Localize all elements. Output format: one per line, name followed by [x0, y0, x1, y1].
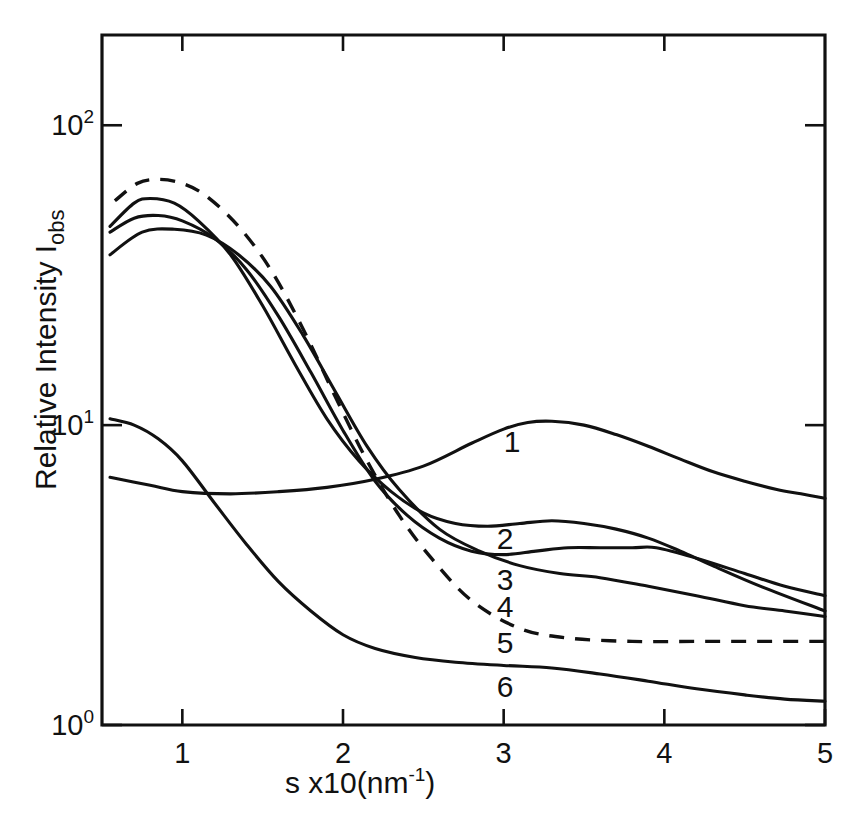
top-axis-ticks	[182, 35, 664, 51]
curve-label-2: 2	[497, 522, 514, 555]
x-tick-label-3: 3	[496, 737, 512, 769]
y-axis-title: Relative Intensity Iobs	[29, 209, 69, 490]
y-tick-exponent: 1	[83, 406, 94, 427]
svg-text:s x10(nm-1): s x10(nm-1)	[285, 764, 435, 799]
y-axis-title-subscript: obs	[44, 209, 69, 244]
curve-1	[110, 421, 825, 498]
x-tick-label-5: 5	[817, 737, 833, 769]
curve-label-4: 4	[497, 590, 514, 623]
xray-scattering-chart: 12345 102101100 123456 s x10(nm-1) Relat…	[0, 0, 853, 816]
x-axis-tick-labels: 12345	[174, 737, 833, 769]
x-axis-ticks	[182, 709, 825, 725]
y-tick-label-1e2: 102	[51, 106, 94, 141]
x-tick-label-1: 1	[174, 737, 190, 769]
curve-3	[110, 215, 825, 595]
figure-canvas: 12345 102101100 123456 s x10(nm-1) Relat…	[0, 0, 853, 816]
x-tick-label-2: 2	[335, 737, 351, 769]
y-tick-exponent: 0	[83, 706, 94, 727]
y-tick-mantissa: 10	[51, 709, 83, 741]
y-tick-mantissa: 10	[51, 109, 83, 141]
right-axis-ticks	[805, 125, 825, 725]
curve-5	[115, 179, 825, 641]
curve-6	[110, 419, 825, 701]
y-tick-label-1e0: 100	[51, 706, 94, 741]
y-tick-exponent: 2	[83, 106, 94, 127]
x-tick-label-4: 4	[656, 737, 672, 769]
curve-label-5: 5	[497, 626, 514, 659]
curve-4	[110, 229, 825, 617]
data-curves	[110, 179, 825, 701]
x-axis-title-main: s x10(nm	[285, 766, 408, 799]
svg-text:Relative Intensity Iobs: Relative Intensity Iobs	[29, 209, 69, 490]
curve-label-6: 6	[497, 670, 514, 703]
x-axis-title-exponent: -1	[408, 764, 425, 785]
x-axis-title-close: )	[425, 766, 435, 799]
y-axis-title-main: Relative Intensity I	[29, 245, 62, 490]
plot-frame	[102, 35, 825, 725]
curve-label-1: 1	[504, 425, 521, 458]
x-axis-title: s x10(nm-1)	[285, 764, 435, 799]
